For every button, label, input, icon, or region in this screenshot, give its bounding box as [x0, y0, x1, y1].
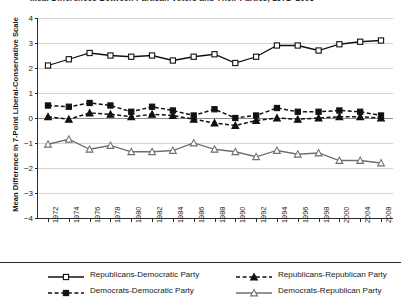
- data-point-open-square: [254, 54, 259, 59]
- data-point-open-triangle: [107, 142, 114, 148]
- data-point-filled-square: [108, 103, 113, 108]
- data-point-open-square: [358, 39, 363, 44]
- data-point-filled-square: [129, 109, 134, 114]
- data-point-open-square: [87, 50, 92, 55]
- data-point-open-square: [295, 43, 300, 48]
- data-point-filled-square: [378, 113, 383, 118]
- data-point-open-square: [63, 274, 68, 279]
- data-point-filled-square: [274, 105, 279, 110]
- data-point-filled-square: [212, 107, 217, 112]
- legend-swatch-open-square-icon: [48, 271, 88, 283]
- data-point-filled-square: [66, 104, 71, 109]
- y-tick-label: −4: [24, 214, 33, 223]
- y-tick-label: 1: [29, 89, 33, 98]
- data-point-open-square: [378, 38, 383, 43]
- data-point-open-square: [45, 63, 50, 68]
- chart-legend: Republicans-Democratic PartyRepublicans-…: [0, 262, 401, 299]
- data-point-filled-square: [254, 113, 259, 118]
- data-point-filled-square: [191, 113, 196, 118]
- y-tick-label: −2: [24, 164, 33, 173]
- data-point-filled-square: [358, 109, 363, 114]
- series-layer: [38, 18, 393, 218]
- chart-container: ...cal Differences Between Partisan Vote…: [0, 0, 401, 300]
- y-axis-title: Mean Difference in 7-Point Liberal-Conse…: [11, 6, 20, 224]
- data-point-filled-square: [87, 100, 92, 105]
- y-tick-label: −3: [24, 189, 33, 198]
- x-axis-line: [38, 218, 393, 219]
- data-point-open-triangle: [274, 147, 281, 153]
- data-point-open-square: [316, 48, 321, 53]
- data-point-open-square: [108, 53, 113, 58]
- data-point-open-square: [337, 42, 342, 47]
- data-point-open-triangle: [190, 140, 197, 146]
- data-point-open-square: [274, 43, 279, 48]
- y-tick-label: 3: [29, 39, 33, 48]
- data-point-filled-square: [149, 104, 154, 109]
- y-tick-label: 2: [29, 64, 33, 73]
- data-point-open-square: [66, 57, 71, 62]
- data-point-open-triangle: [65, 136, 72, 142]
- data-point-filled-square: [170, 108, 175, 113]
- data-point-filled-triangle: [211, 120, 218, 126]
- data-point-open-square: [170, 58, 175, 63]
- data-point-filled-square: [337, 108, 342, 113]
- data-point-open-square: [191, 54, 196, 59]
- legend-label: Republicans-Democratic Party: [90, 270, 199, 279]
- data-point-open-square: [129, 54, 134, 59]
- data-point-filled-square: [63, 290, 68, 295]
- y-tick-label: 4: [29, 14, 33, 23]
- y-tick-label: 0: [29, 114, 33, 123]
- data-point-filled-square: [233, 115, 238, 120]
- data-point-open-square: [233, 60, 238, 65]
- data-point-filled-square: [45, 103, 50, 108]
- data-point-open-square: [212, 52, 217, 57]
- legend-swatch-filled-square-icon: [48, 287, 88, 299]
- chart-title: ...cal Differences Between Partisan Vote…: [30, 0, 401, 3]
- y-tick-label: −1: [24, 139, 33, 148]
- legend-label: Democrats-Democratic Party: [90, 286, 194, 295]
- legend-label: Democrats-Republican Party: [278, 286, 381, 295]
- plot-area: 43210−1−2−3−4 19721974197619781980198219…: [37, 18, 393, 218]
- data-point-open-square: [149, 53, 154, 58]
- data-point-filled-square: [295, 109, 300, 114]
- legend-swatch-open-triangle-icon: [236, 287, 276, 299]
- data-point-filled-triangle: [65, 116, 72, 122]
- data-point-filled-square: [316, 109, 321, 114]
- legend-label: Republicans-Republican Party: [278, 270, 387, 279]
- legend-swatch-filled-triangle-icon: [236, 271, 276, 283]
